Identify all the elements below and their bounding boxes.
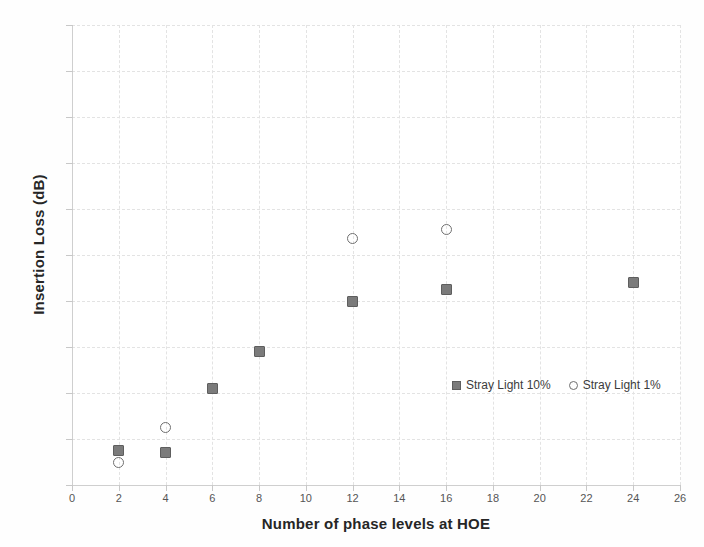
- data-point-square: [254, 346, 265, 357]
- grid-line-horizontal: [72, 71, 680, 72]
- x-axis-tick: [353, 485, 354, 491]
- x-axis-tick-label: 14: [384, 492, 414, 504]
- grid-line-horizontal: [72, 301, 680, 302]
- y-axis-tick: [66, 439, 73, 440]
- y-axis-tick: [66, 117, 73, 118]
- x-axis-tick: [586, 485, 587, 491]
- x-axis-tick: [446, 485, 447, 491]
- legend-entry[interactable]: Stray Light 1%: [569, 379, 661, 391]
- data-point-square: [160, 447, 171, 458]
- data-point-square: [628, 277, 639, 288]
- y-axis-tick: [66, 25, 73, 26]
- grid-line-vertical: [399, 25, 400, 485]
- data-point-square: [207, 383, 218, 394]
- grid-line-vertical: [680, 25, 681, 485]
- x-axis-tick: [166, 485, 167, 491]
- data-point-circle: [113, 457, 124, 468]
- chart-figure: Insertion Loss (dB) Stray Light 10%Stray…: [0, 0, 704, 547]
- legend-marker-circle-icon: [569, 381, 578, 390]
- data-point-square: [347, 296, 358, 307]
- x-axis-tick-label: 24: [618, 492, 648, 504]
- x-axis-tick-label: 0: [57, 492, 87, 504]
- x-axis-tick-label: 22: [571, 492, 601, 504]
- grid-line-vertical: [586, 25, 587, 485]
- y-axis-tick: [66, 71, 73, 72]
- data-point-circle: [160, 422, 171, 433]
- grid-line-horizontal: [72, 163, 680, 164]
- x-axis-tick-label: 12: [338, 492, 368, 504]
- x-axis-tick-label: 2: [104, 492, 134, 504]
- plot-area: [72, 25, 680, 485]
- legend-label: Stray Light 10%: [466, 379, 551, 391]
- data-point-square: [113, 445, 124, 456]
- y-axis-tick: [66, 301, 73, 302]
- x-axis-tick-label: 26: [665, 492, 695, 504]
- grid-line-horizontal: [72, 347, 680, 348]
- x-axis-tick: [212, 485, 213, 491]
- grid-line-vertical: [446, 25, 447, 485]
- x-axis-tick-label: 20: [525, 492, 555, 504]
- data-point-circle: [347, 233, 358, 244]
- legend-label: Stray Light 1%: [583, 379, 661, 391]
- y-axis-tick: [66, 347, 73, 348]
- data-point-square: [441, 284, 452, 295]
- x-axis-tick: [259, 485, 260, 491]
- x-axis-tick-label: 6: [197, 492, 227, 504]
- x-axis-tick: [633, 485, 634, 491]
- grid-line-vertical: [119, 25, 120, 485]
- grid-line-vertical: [540, 25, 541, 485]
- y-axis-tick: [66, 255, 73, 256]
- y-axis-tick: [66, 163, 73, 164]
- x-axis-tick-label: 18: [478, 492, 508, 504]
- data-point-circle: [441, 224, 452, 235]
- grid-line-vertical: [166, 25, 167, 485]
- x-axis-tick-label: 8: [244, 492, 274, 504]
- x-axis-tick-label: 10: [291, 492, 321, 504]
- x-axis-tick: [72, 485, 73, 491]
- x-axis-tick: [493, 485, 494, 491]
- x-axis-spine: [72, 485, 680, 486]
- y-axis-tick: [66, 209, 73, 210]
- x-axis-tick: [680, 485, 681, 491]
- legend-marker-square-icon: [452, 381, 461, 390]
- grid-line-horizontal: [72, 393, 680, 394]
- legend-entry[interactable]: Stray Light 10%: [452, 379, 551, 391]
- grid-line-horizontal: [72, 439, 680, 440]
- chart-legend: Stray Light 10%Stray Light 1%: [452, 379, 661, 391]
- grid-line-horizontal: [72, 117, 680, 118]
- x-axis-tick-label: 4: [151, 492, 181, 504]
- x-axis-title: Number of phase levels at HOE: [72, 515, 680, 532]
- grid-line-vertical: [353, 25, 354, 485]
- x-axis-tick-label: 16: [431, 492, 461, 504]
- x-axis-tick: [540, 485, 541, 491]
- x-axis-tick: [119, 485, 120, 491]
- grid-line-vertical: [633, 25, 634, 485]
- grid-line-horizontal: [72, 25, 680, 26]
- grid-line-vertical: [212, 25, 213, 485]
- y-axis-tick: [66, 393, 73, 394]
- grid-line-horizontal: [72, 255, 680, 256]
- grid-line-vertical: [306, 25, 307, 485]
- grid-line-vertical: [493, 25, 494, 485]
- x-axis-tick: [306, 485, 307, 491]
- grid-line-horizontal: [72, 209, 680, 210]
- y-axis-title: Insertion Loss (dB): [30, 115, 47, 375]
- grid-line-vertical: [259, 25, 260, 485]
- x-axis-tick: [399, 485, 400, 491]
